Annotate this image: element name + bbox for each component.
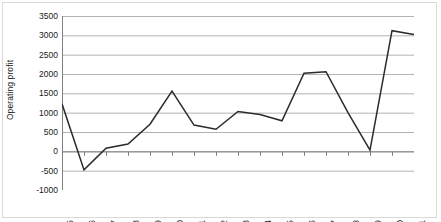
data-series-line <box>62 31 414 170</box>
x-axis-tick-label: 1999 <box>154 220 163 222</box>
x-axis-tick-label: 1995 <box>66 220 75 222</box>
y-axis-tick-label: 1500 <box>18 89 58 98</box>
y-axis-tick-label: 3500 <box>18 12 58 21</box>
y-axis-tick-label: 1000 <box>18 108 58 117</box>
axis-lines <box>62 16 414 190</box>
y-axis-tick-label: -500 <box>18 166 58 175</box>
plot-svg <box>62 16 414 190</box>
x-axis-tick-label: 2005 <box>286 220 295 222</box>
y-axis-tick-label: 3000 <box>18 31 58 40</box>
series-line <box>62 31 414 170</box>
y-axis-title: Operating profit <box>0 0 20 180</box>
x-axis-tick-label: 2003 <box>242 220 251 222</box>
operating-profit-line-chart: Operating profit 35003000250020001500100… <box>0 0 441 222</box>
y-axis-tick-label: -1000 <box>18 186 58 195</box>
gridlines <box>62 17 414 191</box>
y-axis-tick-label: 2500 <box>18 50 58 59</box>
x-axis-tick-label: 2001 <box>198 220 207 222</box>
x-axis-tick-labels: 1995199619971998199920002001200220032004… <box>62 190 414 222</box>
x-axis-tick-label: 1998 <box>132 220 141 222</box>
x-axis-tick-label: 2002 <box>220 220 229 222</box>
x-axis-tick-label: 2007 <box>330 220 339 222</box>
plot-area <box>62 16 414 190</box>
x-axis-tick-label: 2009 <box>374 220 383 222</box>
y-axis-tick-label: 2000 <box>18 70 58 79</box>
x-axis-tick-label: 2004 <box>264 220 273 222</box>
y-axis-title-label: Operating profit <box>5 60 15 120</box>
x-axis-tick-label: 2006 <box>308 220 317 222</box>
x-axis-tick-label: 2008 <box>352 220 361 222</box>
y-axis-tick-label: 500 <box>18 128 58 137</box>
x-axis-tick-label: 2000 <box>176 220 185 222</box>
x-axis-ticks <box>63 152 415 156</box>
y-axis-tick-labels: 3500300025002000150010005000-500-1000 <box>18 0 58 222</box>
x-axis-tick-label: 1996 <box>88 220 97 222</box>
x-axis-tick-label: 2011 <box>418 220 427 222</box>
y-axis-tick-label: 0 <box>18 147 58 156</box>
x-axis-tick-label: 1997 <box>110 220 119 222</box>
x-axis-tick-label: 2010 <box>396 220 405 222</box>
